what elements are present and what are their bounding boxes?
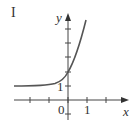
x-axis-label: x <box>122 104 129 119</box>
x-axis-arrow-icon <box>121 97 129 103</box>
exponential-curve <box>14 20 86 86</box>
y-axis-label: y <box>54 10 62 25</box>
y-axis-arrow-icon <box>65 13 71 21</box>
x-tick-label-1: 1 <box>84 102 91 117</box>
function-plot: y x 0 1 1 <box>0 0 137 124</box>
y-tick-label-1: 1 <box>57 79 64 94</box>
x-tick-label-0: 0 <box>58 102 65 117</box>
